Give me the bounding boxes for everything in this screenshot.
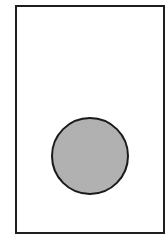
shaded-circle xyxy=(51,117,129,195)
